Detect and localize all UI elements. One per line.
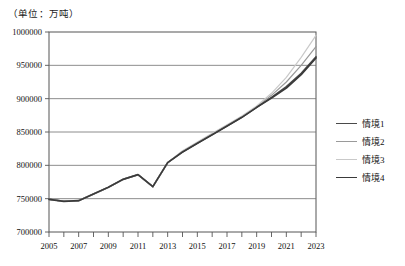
y-axis-ticks [45,32,49,232]
x-tick-label: 2017 [219,241,236,251]
legend-swatch-icon [336,177,357,178]
legend-item[interactable]: 情境2 [336,132,404,150]
legend-swatch-icon [336,141,357,142]
y-tick-label: 850000 [17,127,43,137]
legend-label: 情境1 [362,117,385,130]
y-axis-labels: 7000007500008000008500009000009500001000… [12,27,42,237]
y-tick-label: 950000 [17,60,43,70]
legend-label: 情境2 [362,135,385,148]
legend-item[interactable]: 情境3 [336,150,404,168]
y-tick-label: 700000 [17,227,43,237]
legend-label: 情境3 [362,153,385,166]
legend-item[interactable]: 情境4 [336,168,404,186]
x-tick-label: 2019 [248,241,265,251]
x-axis-labels: 2005200720092011201320152017201920212023 [41,241,325,251]
x-tick-label: 2007 [70,241,87,251]
y-tick-label: 750000 [17,194,43,204]
legend-item[interactable]: 情境1 [336,114,404,132]
y-tick-label: 800000 [17,160,43,170]
legend-label: 情境4 [362,171,385,184]
chart-legend: 情境1情境2情境3情境4 [336,114,404,186]
x-tick-label: 2005 [41,241,58,251]
x-axis-ticks [49,232,316,237]
legend-swatch-icon [336,123,357,124]
x-tick-label: 2013 [159,241,176,251]
x-tick-label: 2011 [130,241,147,251]
y-tick-label: 900000 [17,94,43,104]
legend-swatch-icon [336,159,357,160]
x-tick-label: 2023 [308,241,325,251]
x-tick-label: 2015 [189,241,206,251]
y-tick-label: 1000000 [12,27,42,37]
x-tick-label: 2021 [278,241,295,251]
x-tick-label: 2009 [100,241,117,251]
chart-page: （单位：万吨） 70000075000080000085000090000095… [0,0,405,266]
